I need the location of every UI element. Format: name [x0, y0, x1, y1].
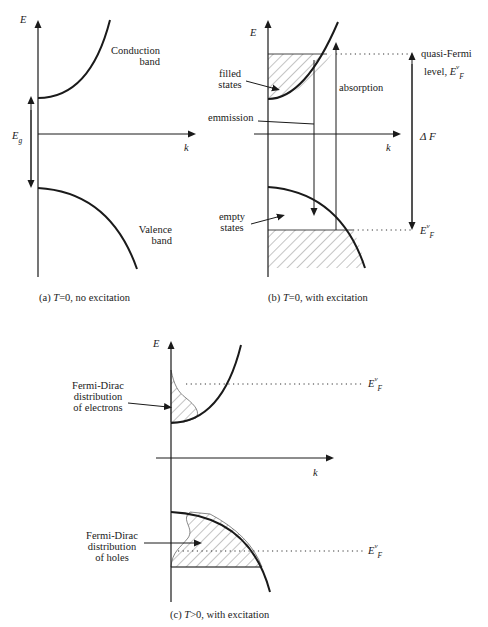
valence-label-line2: band — [118, 235, 172, 246]
bandgap-label: Eg — [12, 130, 22, 142]
valence-band-label: Valenceband — [118, 224, 172, 246]
caption-b: (b) T=0, with excitation — [268, 292, 368, 303]
fd-electrons-line1: Fermi-Dirac — [68, 380, 128, 391]
delta-f-text: Δ F — [420, 130, 436, 142]
conduction-band-label: Conductionband — [108, 45, 160, 67]
delta-f-label: Δ F — [420, 131, 436, 142]
empty-label-line1: empty — [214, 211, 250, 222]
k-axis-label: k — [386, 142, 391, 153]
ef-superscript: v — [456, 63, 459, 71]
ef-superscript: v — [374, 375, 377, 383]
upper-fermi-label: EvF — [368, 378, 382, 391]
fd-holes-label: Fermi-Diracdistributionof holes — [82, 530, 142, 563]
band-diagram-canvas — [0, 0, 488, 627]
valence-filled-hatch — [268, 230, 368, 270]
electron-dist-pointer — [128, 403, 168, 407]
fd-electrons-line3: of electrons — [68, 402, 128, 413]
ef-subscript: F — [378, 384, 383, 393]
caption-a: (a) T=0, no excitation — [39, 292, 130, 303]
ef-subscript: F — [459, 72, 464, 81]
electron-distribution — [171, 370, 198, 422]
ef-superscript: v — [374, 542, 377, 550]
caption-c-text: >0, with excitation — [190, 609, 269, 620]
panel-c — [128, 345, 364, 602]
ef-subscript: F — [378, 551, 383, 560]
energy-axis-label: E — [153, 338, 159, 349]
level-text: level, — [424, 66, 450, 77]
quasi-fermi-level-label: level, EvF — [424, 66, 464, 79]
caption-c: (c) T>0, with excitation — [170, 609, 269, 620]
quasi-fermi-label: quasi-Fermi — [421, 48, 472, 59]
caption-a-prefix: (a) — [39, 292, 53, 303]
energy-axis-label: E — [250, 27, 256, 38]
empty-label-line2: states — [214, 222, 250, 233]
ef-subscript: F — [430, 231, 435, 240]
filled-label-line2: states — [212, 79, 248, 90]
filled-label-line1: filled — [212, 68, 248, 79]
fd-holes-line2: distribution — [82, 541, 142, 552]
conduction-label-line1: Conduction — [108, 45, 160, 56]
absorption-label: absorption — [339, 82, 383, 93]
ef-superscript: v — [426, 222, 429, 230]
emission-label: emmission — [208, 112, 254, 123]
energy-axis-label: E — [20, 14, 26, 25]
caption-a-text: =0, no excitation — [59, 292, 130, 303]
hole-distribution — [171, 512, 262, 567]
lower-fermi-label: EvF — [420, 225, 434, 238]
caption-b-prefix: (b) — [268, 292, 283, 303]
k-axis-label: k — [313, 467, 318, 478]
bandgap-subscript: g — [18, 136, 22, 145]
fd-holes-line1: Fermi-Dirac — [82, 530, 142, 541]
empty-states-pointer — [251, 216, 281, 224]
k-axis-label: k — [184, 142, 189, 153]
lower-fermi-label: EvF — [368, 545, 382, 558]
fd-electrons-label: Fermi-Diracdistributionof electrons — [68, 380, 128, 413]
conduction-band-curve — [38, 20, 110, 98]
caption-b-text: =0, with excitation — [289, 292, 368, 303]
fd-holes-line3: of holes — [82, 552, 142, 563]
filled-states-label: filledstates — [212, 68, 248, 90]
emission-pointer — [258, 121, 314, 124]
conduction-label-line2: band — [108, 56, 160, 67]
valence-label-line1: Valence — [118, 224, 172, 235]
fd-electrons-line2: distribution — [68, 391, 128, 402]
caption-c-prefix: (c) — [170, 609, 184, 620]
empty-states-label: emptystates — [214, 211, 250, 233]
